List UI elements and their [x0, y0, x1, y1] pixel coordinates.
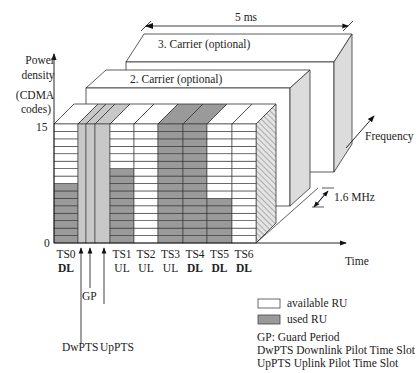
- resource-unit: [54, 169, 78, 176]
- resource-unit: [158, 124, 183, 131]
- resource-unit: [54, 221, 78, 228]
- resource-unit: [232, 191, 256, 198]
- resource-unit: [134, 228, 158, 235]
- resource-unit: [207, 146, 232, 153]
- resource-unit: [232, 206, 256, 213]
- resource-unit: [183, 161, 207, 168]
- resource-unit: [110, 131, 134, 138]
- legend-note-dwpts: DwPTS Downlink Pilot Time Slot: [257, 344, 415, 357]
- resource-unit: [134, 236, 158, 243]
- resource-unit: [158, 139, 183, 146]
- resource-unit: [54, 184, 78, 191]
- resource-unit: [232, 213, 256, 220]
- resource-unit: [110, 236, 134, 243]
- resource-unit: [134, 124, 158, 131]
- resource-unit: [158, 154, 183, 161]
- resource-unit: [134, 139, 158, 146]
- resource-unit: [54, 131, 78, 138]
- y-axis-label-density: density: [14, 69, 62, 82]
- resource-unit: [207, 191, 232, 198]
- resource-unit: [183, 184, 207, 191]
- resource-unit: [134, 161, 158, 168]
- resource-unit: [134, 221, 158, 228]
- pilot-field-gp: [86, 124, 95, 243]
- resource-unit: [134, 191, 158, 198]
- slot-label-ts6: TS6: [228, 248, 260, 261]
- resource-grid: [54, 124, 256, 243]
- resource-unit: [54, 146, 78, 153]
- resource-unit: [183, 131, 207, 138]
- resource-unit: [54, 191, 78, 198]
- resource-unit: [183, 198, 207, 205]
- resource-unit: [207, 228, 232, 235]
- uppts-label: UpPTS: [100, 341, 134, 354]
- resource-unit: [110, 146, 134, 153]
- resource-unit: [158, 221, 183, 228]
- frame-duration-label: 5 ms: [235, 11, 257, 24]
- resource-unit: [183, 228, 207, 235]
- resource-unit: [134, 184, 158, 191]
- resource-unit: [134, 213, 158, 220]
- resource-unit: [110, 206, 134, 213]
- resource-unit: [158, 161, 183, 168]
- gp-label: GP: [82, 290, 97, 303]
- resource-unit: [110, 139, 134, 146]
- resource-unit: [158, 131, 183, 138]
- resource-unit: [158, 206, 183, 213]
- resource-unit: [183, 236, 207, 243]
- slot-label-ts0: TS0: [50, 248, 82, 261]
- resource-unit: [54, 161, 78, 168]
- resource-unit: [183, 139, 207, 146]
- resource-unit: [232, 139, 256, 146]
- resource-unit: [158, 228, 183, 235]
- y-axis-min: 0: [44, 237, 50, 250]
- bandwidth-label: 1.6 MHz: [334, 191, 375, 204]
- resource-unit: [232, 154, 256, 161]
- resource-unit: [54, 206, 78, 213]
- resource-unit: [232, 198, 256, 205]
- grid-side-face: [256, 104, 276, 243]
- resource-unit: [207, 221, 232, 228]
- legend-note-uppts: UpPTS Uplink Pilot Time Slot: [257, 357, 398, 370]
- resource-unit: [134, 169, 158, 176]
- resource-unit: [183, 213, 207, 220]
- resource-unit: [183, 146, 207, 153]
- legend-note-gp: GP: Guard Period: [257, 331, 339, 344]
- pilot-field-uppts: [95, 124, 110, 243]
- resource-unit: [134, 154, 158, 161]
- y-axis-label-power: Power: [18, 54, 62, 67]
- resource-unit: [207, 176, 232, 183]
- resource-unit: [232, 228, 256, 235]
- legend-used-label: used RU: [287, 313, 327, 326]
- resource-unit: [158, 176, 183, 183]
- resource-unit: [183, 221, 207, 228]
- resource-unit: [134, 206, 158, 213]
- resource-unit: [158, 169, 183, 176]
- resource-unit: [207, 161, 232, 168]
- resource-unit: [134, 131, 158, 138]
- resource-unit: [158, 184, 183, 191]
- resource-unit: [158, 198, 183, 205]
- carrier-3-label: 3. Carrier (optional): [158, 38, 250, 51]
- resource-unit: [110, 228, 134, 235]
- legend-available-label: available RU: [287, 297, 347, 310]
- x-axis-label: Time: [345, 255, 369, 268]
- resource-unit: [232, 161, 256, 168]
- grid-top-face: [54, 104, 276, 124]
- resource-unit: [232, 176, 256, 183]
- resource-unit: [232, 169, 256, 176]
- slot-direction-ts0: DL: [50, 262, 82, 275]
- resource-unit: [183, 176, 207, 183]
- resource-unit: [183, 206, 207, 213]
- resource-unit: [110, 124, 134, 131]
- resource-unit: [183, 169, 207, 176]
- carrier-2-label: 2. Carrier (optional): [130, 73, 222, 86]
- resource-unit: [54, 139, 78, 146]
- resource-unit: [134, 146, 158, 153]
- resource-unit: [134, 198, 158, 205]
- resource-unit: [54, 124, 78, 131]
- resource-unit: [110, 176, 134, 183]
- dwpts-label: DwPTS: [62, 341, 98, 354]
- resource-unit: [207, 236, 232, 243]
- resource-unit: [110, 198, 134, 205]
